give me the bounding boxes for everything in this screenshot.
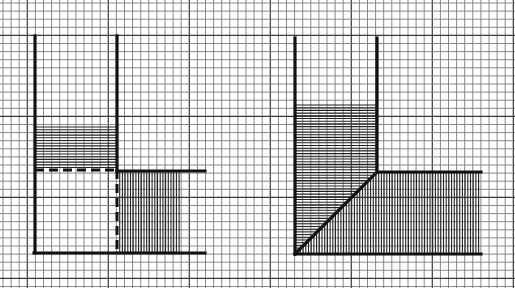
diagram-canvas: Two schematic vessels on graph paper sho… [0,0,515,291]
graph-paper-figure [0,0,515,291]
